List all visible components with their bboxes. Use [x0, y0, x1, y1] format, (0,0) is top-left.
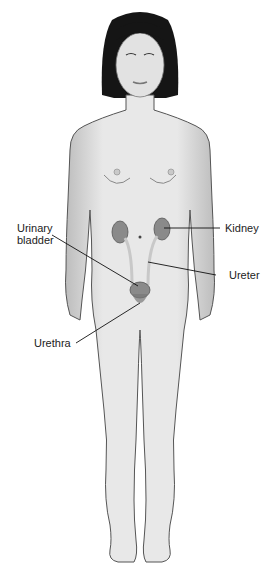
urinary-system-diagram: Urinary bladder Kidney Ureter Urethra: [0, 0, 272, 575]
label-urethra: Urethra: [34, 337, 71, 349]
label-ureter: Ureter: [229, 269, 260, 281]
label-kidney: Kidney: [225, 222, 259, 234]
body-outline: [66, 95, 215, 562]
face: [116, 33, 164, 97]
label-urinary-bladder: Urinary bladder: [17, 222, 54, 246]
female-body-figure: [0, 0, 272, 575]
